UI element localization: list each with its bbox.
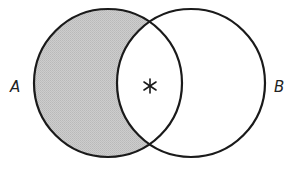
venn-diagram: A B bbox=[0, 0, 295, 174]
venn-svg: A B bbox=[0, 0, 295, 174]
set-label-b: B bbox=[274, 78, 284, 96]
set-label-a: A bbox=[9, 78, 20, 96]
